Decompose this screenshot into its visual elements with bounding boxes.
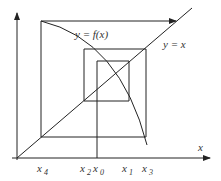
svg-text:0: 0 (100, 168, 104, 177)
tick-label-x1: x 1 (121, 162, 133, 177)
tick-label-x0: x 0 (92, 162, 104, 177)
svg-text:x: x (92, 162, 98, 174)
svg-text:x: x (141, 162, 147, 174)
tick-label-x2: x 2 (79, 162, 91, 177)
cobweb-path (41, 21, 176, 158)
svg-text:3: 3 (148, 168, 153, 177)
tick-label-x4: x 4 (36, 162, 48, 177)
svg-text:x: x (79, 162, 85, 174)
diagonal-label: y = x (162, 38, 186, 50)
tick-label-x3: x 3 (141, 162, 153, 177)
diagram-canvas: y = f(x) y = x x x 4 x 2 x 0 x 1 x 3 (0, 0, 221, 181)
x-axis-label: x (197, 141, 203, 153)
svg-text:2: 2 (87, 168, 91, 177)
svg-text:x: x (121, 162, 127, 174)
curve-label: y = f(x) (74, 28, 108, 41)
svg-text:1: 1 (129, 168, 133, 177)
svg-text:x: x (36, 162, 42, 174)
cobweb-diagram: y = f(x) y = x x x 4 x 2 x 0 x 1 x 3 (0, 0, 221, 181)
svg-text:4: 4 (44, 168, 48, 177)
